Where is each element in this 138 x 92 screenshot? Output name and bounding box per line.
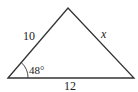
angle-arc: [21, 63, 28, 78]
right-side-label: x: [100, 27, 107, 41]
left-side-label: 10: [23, 29, 35, 43]
triangle-diagram: 10 x 48° 12: [0, 0, 138, 92]
angle-label: 48°: [29, 64, 44, 76]
triangle: [8, 8, 134, 78]
base-label: 12: [64, 79, 76, 92]
